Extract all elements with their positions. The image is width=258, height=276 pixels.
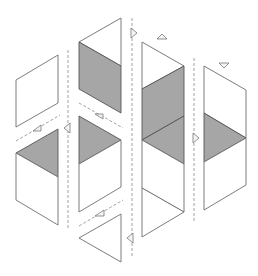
col-2 (79, 18, 121, 262)
fold-arrows (33, 28, 229, 243)
arrow-right-icon (131, 28, 137, 38)
arrow-left-icon (64, 123, 70, 133)
col-4 (204, 66, 246, 210)
arrow-down-icon (219, 63, 229, 68)
arrow-up-left-icon (95, 210, 104, 216)
unfolded-net-diagram (0, 0, 258, 276)
col-3 (142, 42, 184, 237)
arrow-up-right-icon (95, 114, 103, 119)
col-1 (16, 55, 58, 225)
arrow-left-icon (127, 233, 133, 243)
arrow-up-left-icon (33, 125, 41, 131)
white-triangle-face (79, 214, 121, 262)
arrow-up-icon (157, 34, 167, 39)
faces (16, 18, 246, 262)
white-parallelogram-face (16, 55, 58, 127)
arrow-right-icon (193, 133, 199, 143)
